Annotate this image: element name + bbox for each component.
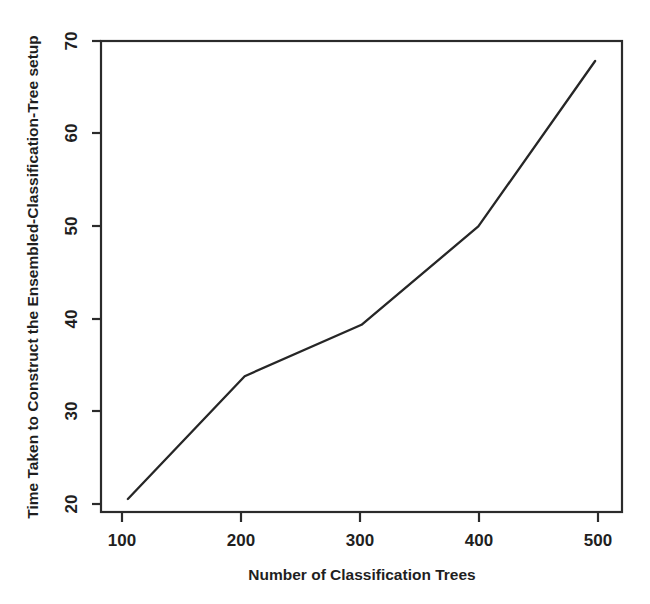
y-axis-ticks [92,41,101,504]
y-axis-tick-labels: 70 60 50 40 30 20 [62,32,81,514]
y-tick-label-50: 50 [62,217,81,236]
y-tick-label-40: 40 [62,310,81,329]
chart-canvas: 70 60 50 40 30 20 100 200 300 400 500 Nu… [0,0,650,604]
y-tick-label-60: 60 [62,124,81,143]
x-axis-title: Number of Classification Trees [248,566,475,583]
x-tick-label-500: 500 [584,531,612,550]
x-axis-tick-labels: 100 200 300 400 500 [108,531,612,550]
data-series-line [128,61,595,499]
chart-figure: 70 60 50 40 30 20 100 200 300 400 500 Nu… [0,0,650,604]
x-tick-label-100: 100 [108,531,136,550]
y-tick-label-70: 70 [62,32,81,51]
plot-frame-box [101,41,622,512]
x-tick-label-300: 300 [346,531,374,550]
y-axis-title: Time Taken to Construct the Ensembled-Cl… [24,35,41,518]
y-tick-label-30: 30 [62,402,81,421]
x-tick-label-400: 400 [465,531,493,550]
x-tick-label-200: 200 [227,531,255,550]
y-tick-label-20: 20 [62,495,81,514]
x-axis-ticks [122,512,598,522]
